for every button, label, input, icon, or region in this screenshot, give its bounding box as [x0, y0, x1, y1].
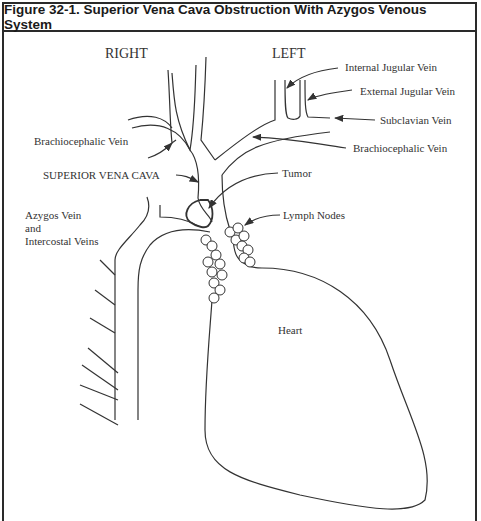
- brachiocephalic-right-arrow: [148, 143, 172, 158]
- external-jugular-arrow: [308, 90, 352, 100]
- label-heart: Heart: [278, 324, 302, 336]
- label-external-jugular: External Jugular Vein: [360, 85, 456, 97]
- heart-outline: [205, 258, 427, 509]
- label-azygos-3: Intercostal Veins: [25, 235, 98, 247]
- label-brachiocephalic-right: Brachiocephalic Vein: [34, 135, 129, 147]
- left-internal-jugular-vein: [285, 80, 300, 119]
- right-neck-vein: [201, 57, 215, 160]
- right-internal-jugular: [172, 65, 196, 150]
- azygos-arch-top: [160, 205, 198, 226]
- label-subclavian: Subclavian Vein: [380, 114, 452, 126]
- label-azygos-2: and: [25, 222, 41, 234]
- lymph-nodes-arrow: [245, 215, 280, 225]
- svc-arrow: [176, 175, 198, 182]
- label-azygos-1: Azygos Vein: [25, 209, 82, 221]
- brachiocephalic-left-arrow: [253, 137, 346, 148]
- subclavian-arrow: [335, 118, 375, 120]
- label-lymph-nodes: Lymph Nodes: [283, 209, 345, 221]
- label-internal-jugular: Internal Jugular Vein: [345, 61, 438, 73]
- azygos-vein-trunk: [138, 230, 210, 420]
- internal-jugular-arrow: [287, 68, 338, 88]
- label-svc: SUPERIOR VENA CAVA: [43, 169, 160, 181]
- label-tumor: Tumor: [282, 167, 312, 179]
- label-right: RIGHT: [105, 46, 148, 61]
- label-left: LEFT: [272, 46, 306, 61]
- label-brachiocephalic-left: Brachiocephalic Vein: [353, 142, 448, 154]
- left-subclavian-upper: [215, 80, 275, 160]
- right-brachiocephalic-vein: [132, 125, 199, 198]
- tumor-arrow: [209, 173, 278, 208]
- svc-diagram: RIGHT LEFT Internal Jugular Vein Externa…: [0, 0, 481, 521]
- lymph-nodes: [201, 223, 255, 303]
